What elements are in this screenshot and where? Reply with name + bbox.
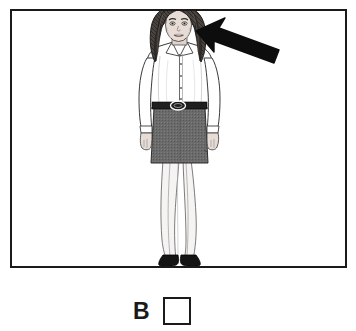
answer-checkbox[interactable] xyxy=(163,297,191,325)
picture-frame xyxy=(10,9,347,268)
answer-row: B xyxy=(133,297,191,325)
illustration-stage: B xyxy=(0,0,356,331)
answer-option-letter: B xyxy=(133,300,150,323)
